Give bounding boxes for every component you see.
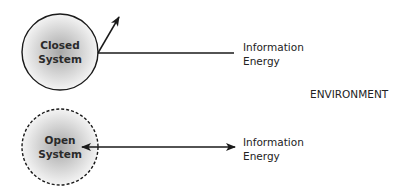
closed-system-label: Closed System (22, 38, 98, 66)
open-flow-energy: Energy (243, 149, 304, 163)
closed-flow-energy: Energy (243, 54, 304, 68)
closed-flow-information: Information (243, 40, 304, 54)
open-system-label: Open System (22, 133, 98, 161)
closed-system-outward-arrow (98, 17, 119, 53)
open-system-label-line1: Open (22, 133, 98, 147)
open-system-label-line2: System (22, 147, 98, 161)
open-flow-information: Information (243, 135, 304, 149)
closed-system-label-line1: Closed (22, 38, 98, 52)
environment-label: ENVIRONMENT (310, 87, 388, 101)
closed-system-flow-labels: Information Energy (243, 40, 304, 68)
closed-system-label-line2: System (22, 52, 98, 66)
open-system-flow-labels: Information Energy (243, 135, 304, 163)
